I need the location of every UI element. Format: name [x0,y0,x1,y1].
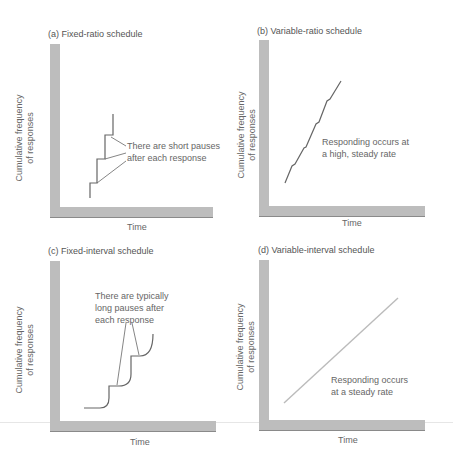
annotation: Responding occurs at a steady rate [331,374,408,398]
